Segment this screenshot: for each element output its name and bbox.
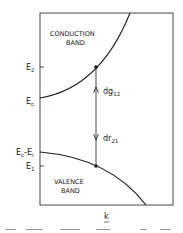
valence-label: VALENCE: [54, 178, 84, 186]
plot-frame: [40, 13, 173, 205]
conduction-band-label: BAND: [66, 39, 85, 47]
e1-label: E1: [26, 162, 35, 172]
state-2-dot: [94, 65, 98, 69]
state-1-dot: [94, 164, 98, 168]
valence-band-label: BAND: [61, 187, 80, 195]
conduction-band-curve: [40, 13, 130, 98]
dg12-label: dg12: [103, 87, 120, 97]
conduction-label: CONDUCTION: [50, 30, 95, 38]
k-axis-label: k: [104, 212, 109, 221]
ec-label: Ec: [26, 97, 34, 107]
ec-ei-label: Ec-Ei: [16, 148, 34, 158]
caption-fragments: [6, 229, 170, 230]
e2-label: E2: [26, 63, 35, 73]
dr21-label: dr21: [103, 134, 118, 144]
band-diagram: CONDUCTION BAND VALENCE BAND E2 Ec Ec-Ei…: [0, 0, 183, 233]
